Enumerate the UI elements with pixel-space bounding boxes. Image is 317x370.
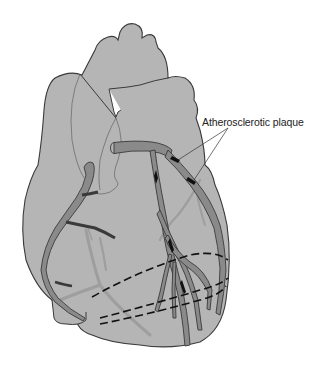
label-atherosclerotic-plaque: Atherosclerotic plaque — [202, 116, 304, 128]
heart-diagram — [0, 0, 317, 370]
